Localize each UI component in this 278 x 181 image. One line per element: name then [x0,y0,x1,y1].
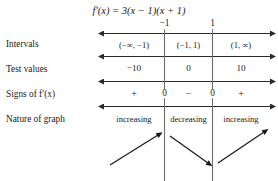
interval-middle: (−1, 1) [177,41,200,50]
sign-right: + [238,89,244,99]
row-label-test-values: Test values [6,65,47,74]
sign-zero-right-critical: 0 [210,89,216,98]
test-value-middle: 0 [186,64,191,73]
sign-zero-left-critical: 0 [162,89,168,98]
trend-arrow-right [218,132,264,163]
interval-left: (−∞, −1) [119,41,149,50]
sign-middle: − [186,89,192,99]
tick-label-left-critical: −1 [157,19,171,29]
chart-title-text: f′(x) = 3(x − 1)(x + 1) [93,5,186,16]
test-value-left: −10 [127,64,141,73]
interval-right: (1, ∞) [231,41,251,50]
chart-title: f′(x) = 3(x − 1)(x + 1) [0,6,278,17]
row-label-signs: Signs of f′(x) [6,90,55,99]
test-value-right: 10 [236,64,245,73]
nature-middle: decreasing [170,115,207,124]
row-label-nature-of-graph: Nature of graph [6,115,65,124]
nature-left: increasing [116,115,151,124]
row-label-signs-text: Signs of f′(x) [6,89,55,99]
row-label-intervals: Intervals [6,40,39,49]
tick-label-right-critical: 1 [208,19,217,29]
nature-right: increasing [223,115,258,124]
derivative-sign-chart: f′(x) = 3(x − 1)(x + 1) [0,0,278,181]
sign-left: + [131,89,137,99]
trend-arrow-middle [170,136,208,163]
trend-arrow-left [110,135,158,165]
